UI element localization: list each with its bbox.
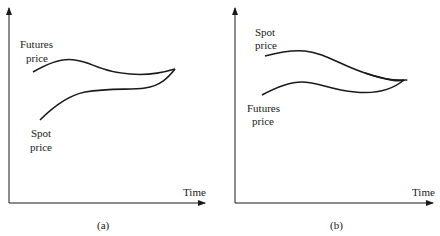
panel-a: Futures price Spot price Time (a) (9, 8, 206, 232)
spot-price-curve-a (40, 69, 175, 120)
caption-b: (b) (330, 219, 343, 232)
futures-price-curve-b (262, 80, 404, 95)
spot-label-b-line2: price (255, 39, 277, 51)
spot-label-a-line1: Spot (31, 127, 51, 139)
time-label-a: Time (183, 186, 206, 198)
diagram-canvas: Futures price Spot price Time (a) Spot p… (0, 0, 440, 236)
spot-price-curve-b (265, 51, 407, 81)
spot-label-b-line1: Spot (255, 26, 275, 38)
futures-price-curve-a (33, 60, 175, 75)
spot-price-curve-b-tail (365, 73, 404, 80)
futures-label-b-line1: Futures (247, 102, 280, 114)
panel-b: Spot price Futures price Time (b) (235, 8, 435, 232)
spot-label-a-line2: price (30, 141, 52, 153)
futures-label-a-line1: Futures (20, 38, 53, 50)
futures-label-a-line2: price (26, 52, 48, 64)
futures-label-b-line2: price (252, 115, 274, 127)
caption-a: (a) (97, 219, 110, 232)
time-label-b: Time (412, 186, 435, 198)
